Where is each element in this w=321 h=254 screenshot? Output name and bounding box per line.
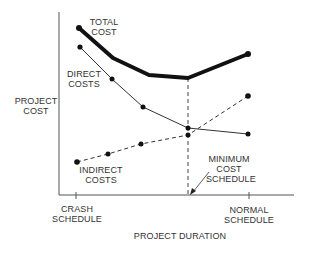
label-line: COSTS xyxy=(64,79,104,89)
label-line: SCHEDULE xyxy=(206,174,252,184)
label-line: COSTS xyxy=(78,175,124,185)
label-line: NORMAL xyxy=(222,205,276,215)
label-line: SCHEDULE xyxy=(222,215,276,225)
x-axis-label: PROJECT DURATION xyxy=(130,231,230,241)
label-line: MINIMUM xyxy=(206,154,252,164)
label-line: DIRECT xyxy=(64,69,104,79)
label-line: COST xyxy=(84,27,124,37)
label-line: COST xyxy=(206,164,252,174)
label-minimum-cost-schedule: MINIMUM COST SCHEDULE xyxy=(206,154,252,184)
label-line: PROJECT xyxy=(14,96,58,106)
label-line: INDIRECT xyxy=(78,165,124,175)
y-axis-label: PROJECT COST xyxy=(14,96,58,116)
label-total-cost: TOTAL COST xyxy=(84,17,124,37)
label-line: COST xyxy=(14,106,58,116)
x-tick-crash: CRASH SCHEDULE xyxy=(51,204,103,224)
label-indirect-costs: INDIRECT COSTS xyxy=(78,165,124,185)
direct-points xyxy=(77,44,250,136)
x-tick-normal: NORMAL SCHEDULE xyxy=(222,205,276,225)
label-line: SCHEDULE xyxy=(51,214,103,224)
label-line: TOTAL xyxy=(84,17,124,27)
series-indirect-costs xyxy=(77,96,248,162)
label-line: CRASH xyxy=(51,204,103,214)
series-direct-costs xyxy=(80,47,248,134)
label-direct-costs: DIRECT COSTS xyxy=(64,69,104,89)
